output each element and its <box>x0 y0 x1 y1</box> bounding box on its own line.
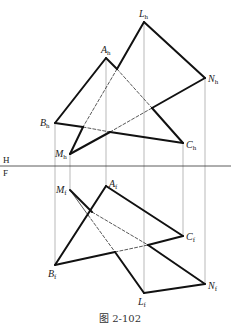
label-l-f: Lf <box>137 296 147 309</box>
label-c-f: Cf <box>186 231 196 244</box>
label-n-f: Nf <box>207 280 218 293</box>
upper-view <box>55 22 205 154</box>
label-a-h: Ah <box>100 44 111 57</box>
lower-view <box>55 186 205 293</box>
label-b-f: Bf <box>48 268 57 281</box>
label-m-f: Mf <box>55 184 67 197</box>
label-m-h: Mh <box>54 148 67 161</box>
triangle-intersection-diagram: H F Lh Ah <box>0 0 231 331</box>
label-l-h: Lh <box>138 8 149 21</box>
plane-label-h: H <box>3 155 10 165</box>
projection-lines <box>55 22 205 293</box>
label-n-h: Nh <box>207 73 219 86</box>
lower-point-labels: Mf Af Cf Bf Nf Lf <box>48 178 218 309</box>
figure-caption: 图 2-102 <box>99 313 141 324</box>
label-b-h: Bh <box>40 117 50 130</box>
label-c-h: Ch <box>186 139 197 152</box>
plane-label-f: F <box>3 168 8 178</box>
